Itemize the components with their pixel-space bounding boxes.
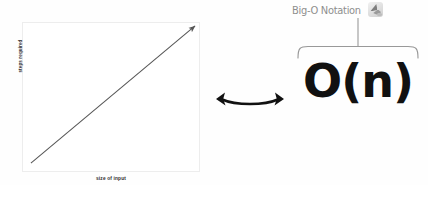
big-o-expression: O(n) <box>288 58 428 104</box>
double-headed-arrow-icon <box>212 84 288 114</box>
chart-plot-area <box>23 23 199 171</box>
chart-x-axis-label: size of input <box>22 176 200 181</box>
canvas: steps required size of input Big-O Notat… <box>0 0 428 199</box>
avatar-thumbnail-icon <box>368 2 383 17</box>
footer-spacer <box>0 185 428 199</box>
chart-y-axis-label: steps required <box>18 24 23 88</box>
big-o-annotation-group: Big-O Notation O(n) <box>288 0 428 145</box>
chart-panel <box>22 22 200 172</box>
big-o-title: Big-O Notation <box>292 2 383 17</box>
big-o-title-label: Big-O Notation <box>292 4 361 16</box>
growth-line <box>31 26 195 163</box>
